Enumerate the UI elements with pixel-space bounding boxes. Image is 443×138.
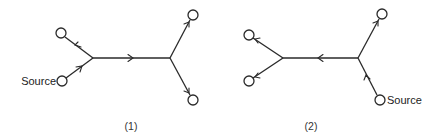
node-source (57, 76, 67, 86)
edge-left-junction-to-bottom-left (253, 58, 283, 78)
node-top-right (188, 10, 198, 20)
flow-diagrams: Source (1) Source (2) (0, 0, 443, 138)
edge-right-junction-to-bottom-right (170, 58, 190, 95)
node-top-left (56, 28, 66, 38)
edge-right-junction-to-top-right (358, 19, 379, 58)
diagram-2: Source (2) (244, 9, 422, 132)
source-label: Source (21, 75, 56, 87)
arrow-icon (75, 42, 81, 47)
caption-1: (1) (125, 120, 138, 132)
node-bottom-left (244, 76, 254, 86)
edge-left-junction-to-top-left (65, 37, 93, 58)
diagram-1: Source (1) (21, 10, 198, 132)
node-source (375, 95, 385, 105)
caption-2: (2) (305, 120, 318, 132)
source-label: Source (387, 94, 422, 106)
node-top-left (244, 30, 254, 40)
node-bottom-right (188, 95, 198, 105)
edge-source-to-left-junction (66, 58, 93, 78)
node-top-right (377, 9, 387, 19)
edge-left-junction-to-top-left (253, 38, 283, 58)
edge-right-junction-to-top-right (170, 20, 190, 58)
